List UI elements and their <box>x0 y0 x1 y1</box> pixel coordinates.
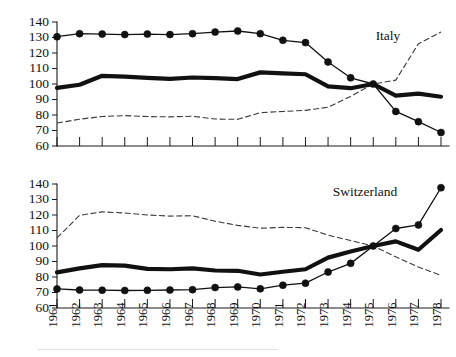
series-data-point <box>347 260 354 267</box>
series-data-point <box>234 27 241 34</box>
x-axis-tick-label: 1971 <box>272 303 286 328</box>
series-data-point <box>99 31 106 38</box>
y-axis-tick-label: 100 <box>29 238 50 253</box>
series-data-point <box>415 221 422 228</box>
panel-label-italy: Italy <box>376 28 401 43</box>
series-data-point <box>415 118 422 125</box>
y-axis-tick-label: 140 <box>29 14 50 29</box>
x-axis-tick-label: 1962 <box>69 303 83 328</box>
series-line-markers <box>57 188 441 291</box>
x-axis-tick-label: 1967 <box>182 303 196 328</box>
series-data-point <box>144 31 151 38</box>
two-panel-line-chart-figure: 60708090100110120130140Italy 60708090100… <box>0 0 456 357</box>
x-axis-tick-label: 1973 <box>317 303 331 328</box>
x-axis-tick-label: 1972 <box>294 303 308 328</box>
x-axis-tick-label: 1961 <box>46 303 60 328</box>
y-axis-tick-label: 110 <box>29 222 49 237</box>
series-data-point <box>54 285 61 292</box>
series-data-point <box>234 283 241 290</box>
series-data-point <box>257 285 264 292</box>
y-axis-tick-label: 70 <box>36 122 50 137</box>
series-data-point <box>302 280 309 287</box>
y-axis-tick-label: 120 <box>29 45 50 60</box>
series-data-point <box>121 31 128 38</box>
x-axis-tick-label: 1977 <box>407 303 421 328</box>
y-axis-tick-label: 70 <box>36 284 50 299</box>
y-axis-tick-label: 100 <box>29 76 50 91</box>
footer-rule <box>38 349 278 350</box>
x-axis-tick-label: 1978 <box>430 303 444 328</box>
x-axis-tick-label: 1966 <box>159 303 173 328</box>
x-axis-tick-label: 1970 <box>249 303 263 328</box>
series-data-point <box>189 286 196 293</box>
series-data-point <box>76 287 83 294</box>
panel-label-switzerland: Switzerland <box>333 184 398 199</box>
y-axis-tick-label: 120 <box>29 207 50 222</box>
series-data-point <box>54 33 61 40</box>
x-axis-tick-label: 1974 <box>340 302 354 328</box>
series-data-point <box>438 184 445 191</box>
chart-canvas: 60708090100110120130140Italy 60708090100… <box>0 0 456 357</box>
series-data-point <box>325 269 332 276</box>
series-data-point <box>370 81 377 88</box>
series-data-point <box>392 225 399 232</box>
series-data-point <box>189 30 196 37</box>
series-data-point <box>325 58 332 65</box>
series-line-thick <box>57 72 441 96</box>
series-data-point <box>99 287 106 294</box>
series-data-point <box>279 37 286 44</box>
y-axis-tick-label: 130 <box>29 29 50 44</box>
x-axis-tick-label: 1968 <box>204 303 218 328</box>
x-axis-tick-label: 1976 <box>385 303 399 328</box>
x-axis-tick-label: 1963 <box>91 303 105 328</box>
series-data-point <box>144 287 151 294</box>
series-data-point <box>166 287 173 294</box>
y-axis-tick-label: 90 <box>36 91 50 106</box>
series-line-markers <box>57 31 441 133</box>
series-data-point <box>392 108 399 115</box>
series-data-point <box>347 74 354 81</box>
series-data-point <box>212 29 219 36</box>
y-axis-tick-label: 130 <box>29 191 50 206</box>
x-axis-tick-label: 1975 <box>362 303 376 328</box>
series-data-point <box>166 31 173 38</box>
y-axis-tick-label: 90 <box>36 253 50 268</box>
y-axis-tick-label: 60 <box>36 138 50 153</box>
x-axis-tick-label: 1969 <box>227 303 241 328</box>
series-data-point <box>302 39 309 46</box>
x-axis-tick-label: 1964 <box>114 302 128 328</box>
series-data-point <box>121 287 128 294</box>
series-data-point <box>438 129 445 136</box>
y-axis-tick-label: 80 <box>36 269 50 284</box>
chart-panel-italy: 60708090100110120130140Italy <box>29 14 449 153</box>
series-data-point <box>370 243 377 250</box>
series-data-point <box>76 30 83 37</box>
series-line-thick <box>57 230 441 274</box>
x-axis-tick-label: 1965 <box>136 303 150 328</box>
chart-panel-switzerland: 6070809010011012013014019611962196319641… <box>29 176 449 328</box>
series-data-point <box>257 30 264 37</box>
y-axis-tick-label: 110 <box>29 60 49 75</box>
y-axis-tick-label: 80 <box>36 107 50 122</box>
series-data-point <box>212 284 219 291</box>
series-data-point <box>279 282 286 289</box>
y-axis-tick-label: 140 <box>29 176 50 191</box>
